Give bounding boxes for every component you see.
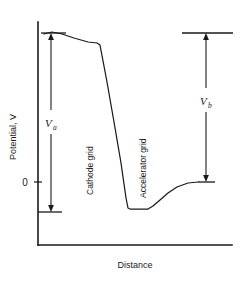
cathode-grid-label: Cathode grid (85, 146, 95, 195)
accelerator-grid-label: Accelerator grid (138, 138, 148, 198)
zero-tick-label: 0 (22, 177, 28, 188)
va-label-subscript: a (53, 123, 57, 132)
potential-vs-distance-figure: 0 V a V b (0, 0, 241, 281)
chart-background (0, 0, 241, 281)
x-axis-label: Distance (117, 260, 152, 270)
y-axis-label: Potential, V (8, 114, 18, 160)
vb-label-subscript: b (208, 101, 212, 110)
chart-canvas: 0 V a V b (0, 0, 241, 281)
